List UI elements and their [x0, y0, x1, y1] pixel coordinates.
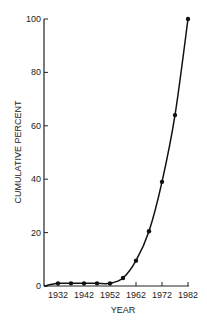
y-tick-label: 60	[31, 121, 41, 131]
y-tick-label: 20	[31, 228, 41, 238]
x-axis-title: YEAR	[111, 305, 136, 315]
x-tick-label: 1942	[74, 290, 94, 300]
data-point-marker	[108, 281, 112, 285]
data-line	[44, 19, 188, 286]
data-point-marker	[69, 281, 73, 285]
x-tick-label: 1962	[126, 290, 146, 300]
y-tick-label: 0	[36, 281, 41, 291]
y-tick-label: 80	[31, 67, 41, 77]
data-point-marker	[173, 113, 177, 117]
data-point-marker	[186, 17, 190, 21]
data-point-marker	[160, 180, 164, 184]
data-point-marker	[121, 276, 125, 280]
data-point-marker	[134, 258, 138, 262]
y-axis: 020406080100	[26, 14, 48, 291]
cumulative-percent-chart: 020406080100 193219421952196219721982 CU…	[0, 0, 207, 328]
x-tick-label: 1982	[178, 290, 198, 300]
data-points	[56, 17, 190, 286]
x-tick-label: 1932	[48, 290, 68, 300]
data-point-marker	[95, 281, 99, 285]
x-axis: 193219421952196219721982	[44, 282, 198, 300]
y-tick-label: 40	[31, 174, 41, 184]
y-tick-label: 100	[26, 14, 41, 24]
data-point-marker	[147, 229, 151, 233]
data-point-marker	[82, 281, 86, 285]
y-axis-title: CUMULATIVE PERCENT	[13, 100, 23, 203]
x-tick-label: 1952	[100, 290, 120, 300]
x-tick-label: 1972	[152, 290, 172, 300]
data-point-marker	[56, 281, 60, 285]
